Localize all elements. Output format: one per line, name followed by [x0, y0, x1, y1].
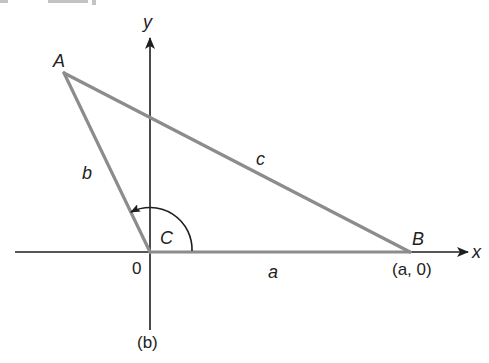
- origin-label: 0: [132, 259, 141, 278]
- side-a-label: a: [268, 262, 278, 282]
- cropped-text-artifact: [0, 0, 96, 5]
- x-axis-label: x: [471, 242, 482, 262]
- side-b: [64, 73, 150, 252]
- vertex-a-label: A: [52, 51, 65, 71]
- side-c: [64, 73, 410, 252]
- side-c-label: c: [256, 149, 265, 169]
- angle-c-label: C: [160, 228, 174, 248]
- vertex-b-coord-label: (a, 0): [392, 260, 432, 279]
- figure-caption: (b): [137, 333, 158, 352]
- side-b-label: b: [82, 163, 92, 183]
- triangle-diagram: y x A B C b c a 0 (a, 0) (b): [0, 0, 489, 363]
- y-axis-label: y: [141, 12, 153, 32]
- vertex-b-label: B: [412, 229, 424, 249]
